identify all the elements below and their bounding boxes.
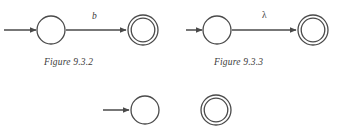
transition-label-lambda: λ bbox=[262, 10, 267, 20]
start-state-circle bbox=[131, 96, 159, 124]
accepting-state-outer-circle bbox=[128, 15, 158, 45]
accepting-state-outer-circle bbox=[201, 95, 231, 125]
figure-9-3-3-graphics bbox=[186, 15, 328, 45]
accepting-state-inner-circle bbox=[131, 18, 155, 42]
accepting-state-outer-circle bbox=[298, 15, 328, 45]
figure-caption-9-3-2: Figure 9.3.2 bbox=[44, 57, 93, 67]
start-state-circle bbox=[37, 16, 65, 44]
accepting-state-inner-circle bbox=[204, 98, 228, 122]
transition-label-b: b bbox=[92, 11, 97, 21]
figure-page: b λ Figure 9.3.2 Figure 9.3.3 bbox=[0, 0, 343, 133]
start-state-circle bbox=[203, 16, 231, 44]
partial-figure-row-graphics bbox=[103, 95, 231, 125]
accepting-state-inner-circle bbox=[301, 18, 325, 42]
figure-9-3-2-graphics bbox=[4, 15, 158, 45]
figure-caption-9-3-3: Figure 9.3.3 bbox=[214, 57, 263, 67]
